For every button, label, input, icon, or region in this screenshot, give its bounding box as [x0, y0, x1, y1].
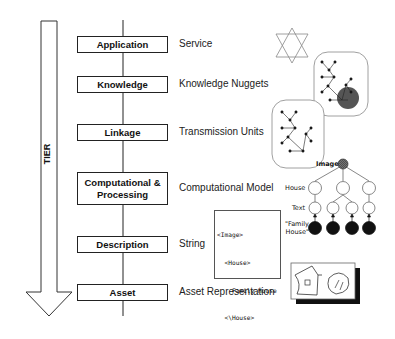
tier-desc-application: Service [179, 38, 212, 49]
model-text-label: Text [292, 204, 305, 212]
model-value-label: "Family House" [285, 220, 309, 236]
tier-box-linkage: Linkage [77, 124, 168, 141]
model-root-label: Image [316, 160, 339, 168]
tier-desc-computational: Computational Model [179, 182, 274, 193]
tier-box-knowledge: Knowledge [77, 76, 168, 93]
model-house-label: House [285, 184, 305, 192]
star-icon [268, 28, 316, 71]
transmission-units-graph [272, 100, 324, 168]
xml-line: <\House> [217, 313, 278, 322]
xml-line: <Image> [217, 230, 278, 239]
tier-box-asset: Asset [77, 284, 168, 301]
tier-desc-knowledge: Knowledge Nuggets [179, 78, 269, 89]
tier-label: TIER [42, 137, 56, 171]
image-root-node [338, 159, 348, 169]
xml-line: <House> [217, 258, 278, 267]
tier-desc-linkage: Transmission Units [179, 126, 264, 137]
tier-desc-description: String [179, 238, 205, 249]
tier-box-computational-processing: Computational & Processing [77, 172, 168, 205]
asset-representation-picture [291, 263, 360, 304]
xml-string-box: <Image> <House> Family House <\House> <L… [214, 210, 281, 279]
computational-model-tree [309, 159, 376, 235]
tier-box-description: Description [77, 236, 168, 253]
xml-line: Family House [217, 286, 278, 295]
tier-box-application: Application [77, 36, 168, 53]
